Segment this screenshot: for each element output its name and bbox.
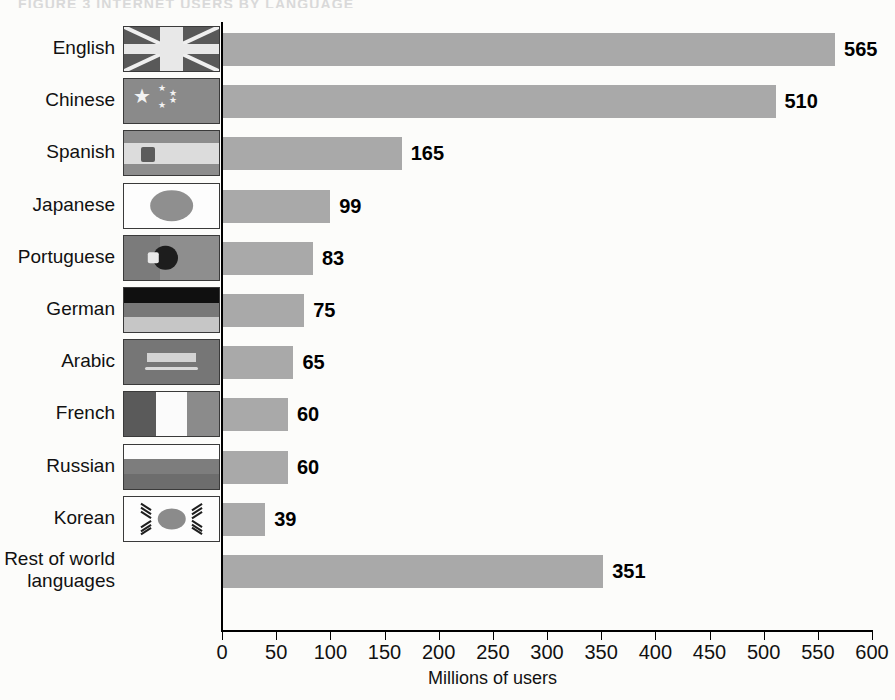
flag-spain-icon	[123, 130, 220, 176]
bar-value-label: 39	[274, 508, 296, 531]
x-axis-tick	[547, 632, 548, 640]
bar-value-label: 565	[844, 38, 877, 61]
bar-value-label: 65	[302, 351, 324, 374]
bar-row: English565	[0, 24, 895, 76]
flag-germany-icon	[123, 287, 220, 333]
bar[interactable]	[223, 503, 265, 536]
x-axis-tick-label: 500	[747, 641, 780, 664]
x-axis-tick	[330, 632, 331, 640]
x-axis-tick-label: 250	[476, 641, 509, 664]
bar[interactable]	[223, 555, 603, 588]
bar[interactable]	[223, 137, 402, 170]
bar[interactable]	[223, 451, 288, 484]
bar-row: Chinese★★★★★510	[0, 76, 895, 128]
x-axis-title: Millions of users	[0, 668, 895, 689]
x-axis-tick-label: 50	[265, 641, 287, 664]
flag-south-korea-icon	[123, 496, 220, 542]
x-axis-tick-label: 300	[530, 641, 563, 664]
x-axis-tick-label: 550	[801, 641, 834, 664]
bar-value-label: 60	[297, 456, 319, 479]
bar[interactable]	[223, 190, 330, 223]
flag-saudi-arabia-icon	[123, 339, 220, 385]
bar-value-label: 75	[313, 299, 335, 322]
x-axis-tick	[222, 632, 223, 640]
bar[interactable]	[223, 294, 304, 327]
category-label: English	[0, 37, 115, 59]
flag-france-icon	[123, 391, 220, 437]
category-label: Portuguese	[0, 246, 115, 268]
flag-united-kingdom-icon	[123, 26, 220, 72]
x-axis-tick	[872, 632, 873, 640]
flag-russia-icon	[123, 444, 220, 490]
category-label: Spanish	[0, 141, 115, 163]
bar[interactable]	[223, 242, 313, 275]
x-axis-tick-label: 350	[584, 641, 617, 664]
bar[interactable]	[223, 346, 293, 379]
category-label: German	[0, 298, 115, 320]
bar[interactable]	[223, 33, 835, 66]
x-axis-tick	[710, 632, 711, 640]
bar-row: French60	[0, 389, 895, 441]
x-axis-tick-label: 450	[693, 641, 726, 664]
bar-row: Spanish165	[0, 128, 895, 180]
bar-value-label: 60	[297, 403, 319, 426]
bar-row: Korean39	[0, 494, 895, 546]
bar[interactable]	[223, 398, 288, 431]
bar[interactable]	[223, 85, 776, 118]
bar-chart: English565Chinese★★★★★510Spanish165Japan…	[0, 0, 895, 700]
bar-row: Japanese99	[0, 181, 895, 233]
x-axis-tick	[818, 632, 819, 640]
category-label: Russian	[0, 455, 115, 477]
bar-value-label: 83	[322, 247, 344, 270]
category-label: Rest of world languages	[0, 548, 115, 592]
flag-china-icon: ★★★★★	[123, 78, 220, 124]
x-axis-tick-label: 400	[639, 641, 672, 664]
x-axis-tick	[385, 632, 386, 640]
x-axis-tick	[493, 632, 494, 640]
bar-value-label: 99	[339, 195, 361, 218]
category-label: Japanese	[0, 194, 115, 216]
bar-value-label: 165	[411, 142, 444, 165]
x-axis-tick-label: 150	[368, 641, 401, 664]
bar-row: Russian60	[0, 442, 895, 494]
x-axis-tick	[655, 632, 656, 640]
bar-value-label: 351	[612, 560, 645, 583]
bar-row: German75	[0, 285, 895, 337]
x-axis-tick-label: 200	[422, 641, 455, 664]
x-axis-tick	[439, 632, 440, 640]
flag-japan-icon	[123, 183, 220, 229]
x-axis-tick-label: 600	[855, 641, 888, 664]
flag-portugal-icon	[123, 235, 220, 281]
x-axis-tick-label: 100	[314, 641, 347, 664]
category-label: Korean	[0, 507, 115, 529]
x-axis-tick-label: 0	[216, 641, 227, 664]
category-label: Arabic	[0, 350, 115, 372]
category-label: French	[0, 402, 115, 424]
bar-row: Portuguese83	[0, 233, 895, 285]
bar-row: Arabic65	[0, 337, 895, 389]
category-label: Chinese	[0, 89, 115, 111]
bar-value-label: 510	[785, 90, 818, 113]
x-axis-tick	[764, 632, 765, 640]
x-axis-tick	[276, 632, 277, 640]
x-axis-tick	[601, 632, 602, 640]
bar-row: Rest of world languages351	[0, 546, 895, 598]
